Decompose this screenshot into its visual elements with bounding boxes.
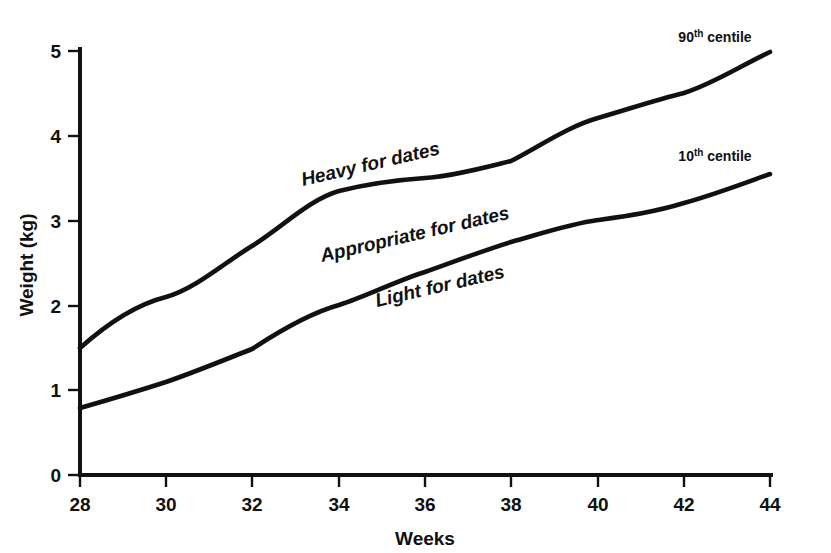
x-tick-label-28: 28 bbox=[69, 494, 90, 515]
y-tick-label-1: 1 bbox=[50, 380, 61, 401]
y-tick-label-0: 0 bbox=[50, 465, 61, 486]
weight-centile-chart: 5 4 3 2 1 0 28 30 32 34 36 38 40 bbox=[0, 0, 831, 553]
x-tick-label-34: 34 bbox=[328, 494, 350, 515]
label-90th-centile-superscript: th bbox=[694, 28, 703, 39]
annotation-heavy-for-dates: Heavy for dates bbox=[299, 138, 442, 190]
x-tick-label-42: 42 bbox=[673, 494, 694, 515]
chart-canvas: 5 4 3 2 1 0 28 30 32 34 36 38 40 bbox=[0, 0, 831, 553]
label-10th-centile-suffix: centile bbox=[703, 148, 751, 164]
annotation-appropriate-for-dates: Appropriate for dates bbox=[317, 202, 511, 266]
y-tick-label-3: 3 bbox=[50, 211, 61, 232]
x-tick-label-30: 30 bbox=[155, 494, 176, 515]
x-tick-label-44: 44 bbox=[759, 494, 781, 515]
y-tick-label-5: 5 bbox=[50, 41, 61, 62]
axis-group bbox=[80, 49, 771, 475]
label-90th-centile-number: 90 bbox=[678, 29, 694, 45]
x-axis-title: Weeks bbox=[395, 528, 455, 549]
y-axis-title: Weight (kg) bbox=[16, 213, 37, 316]
y-tick-labels: 5 4 3 2 1 0 bbox=[50, 41, 61, 486]
label-10th-centile-number: 10 bbox=[678, 148, 694, 164]
label-90th-centile-suffix: centile bbox=[703, 29, 751, 45]
y-tick-label-2: 2 bbox=[50, 296, 61, 317]
x-tick-label-38: 38 bbox=[500, 494, 521, 515]
x-tick-labels: 28 30 32 34 36 38 40 42 44 bbox=[69, 494, 781, 515]
curve-90th-centile bbox=[80, 52, 770, 348]
x-tick-label-36: 36 bbox=[414, 494, 435, 515]
x-tick-label-32: 32 bbox=[241, 494, 262, 515]
centile-end-labels: 90th centile 10th centile bbox=[678, 28, 751, 165]
label-90th-centile: 90th centile bbox=[678, 28, 751, 46]
y-tick-label-4: 4 bbox=[50, 126, 61, 147]
label-10th-centile: 10th centile bbox=[678, 147, 751, 165]
label-10th-centile-superscript: th bbox=[694, 147, 703, 158]
region-annotations: Heavy for dates Appropriate for dates Li… bbox=[299, 138, 511, 311]
x-tick-label-40: 40 bbox=[587, 494, 608, 515]
